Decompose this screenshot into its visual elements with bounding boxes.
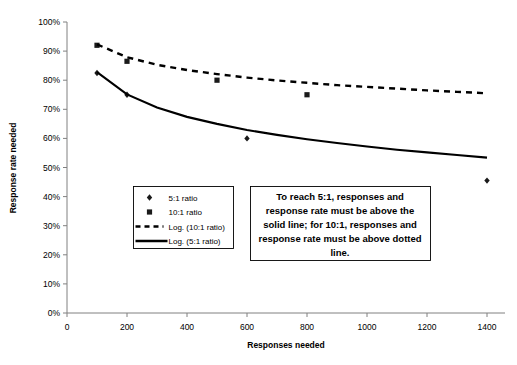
legend-label: 10:1 ratio [169, 208, 203, 217]
note-line: solid line; for 10:1, responses and [263, 219, 417, 230]
y-tick-label: 50% [43, 163, 60, 173]
legend-label: 5:1 ratio [169, 194, 198, 203]
data-point-square [304, 92, 309, 97]
x-tick-label: 1200 [418, 322, 437, 332]
x-tick-label: 1400 [478, 322, 497, 332]
y-tick-label: 80% [43, 75, 60, 85]
instruction-note: To reach 5:1, responses andresponse rate… [251, 187, 431, 261]
chart-legend: 5:1 ratio10:1 ratioLog. (10:1 ratio)Log.… [134, 187, 234, 249]
y-tick-label: 0% [48, 308, 61, 318]
note-line: response rate must be above the [266, 205, 414, 216]
y-axis-ticks: 0%10%20%30%40%50%60%70%80%90%100% [38, 17, 67, 318]
x-tick-label: 400 [180, 322, 194, 332]
data-series-group [94, 43, 489, 184]
y-axis-title: Response rate needed [8, 123, 18, 214]
x-tick-label: 800 [300, 322, 314, 332]
note-line: line. [330, 247, 349, 258]
x-tick-label: 200 [120, 322, 134, 332]
x-axis-ticks: 0200400600800100012001400 [65, 313, 497, 332]
x-axis-title: Responses needed [247, 340, 324, 350]
y-tick-label: 20% [43, 250, 60, 260]
y-tick-label: 90% [43, 46, 60, 56]
x-tick-label: 1000 [358, 322, 377, 332]
y-tick-label: 70% [43, 104, 60, 114]
legend-square-icon [147, 209, 152, 214]
legend-label: Log. (5:1 ratio) [169, 237, 221, 246]
chart-svg: 0%10%20%30%40%50%60%70%80%90%100% 020040… [0, 0, 517, 365]
note-line: To reach 5:1, responses and [276, 191, 404, 202]
y-tick-label: 100% [38, 17, 60, 27]
chart-container: 0%10%20%30%40%50%60%70%80%90%100% 020040… [0, 0, 517, 365]
y-tick-label: 10% [43, 279, 60, 289]
data-point-square [124, 59, 129, 64]
legend-label: Log. (10:1 ratio) [169, 223, 226, 232]
x-tick-label: 600 [240, 322, 254, 332]
y-tick-label: 40% [43, 192, 60, 202]
note-line: response rate must be above dotted [258, 233, 421, 244]
y-tick-label: 60% [43, 133, 60, 143]
y-tick-label: 30% [43, 221, 60, 231]
data-point-diamond [244, 135, 249, 141]
x-tick-label: 0 [65, 322, 70, 332]
data-point-diamond [484, 177, 489, 183]
series-line-dashed [97, 44, 487, 93]
series-line-solid [97, 72, 487, 158]
data-point-square [214, 78, 219, 83]
